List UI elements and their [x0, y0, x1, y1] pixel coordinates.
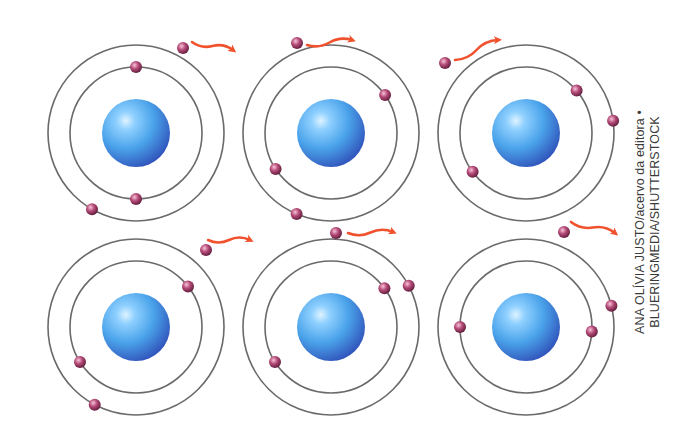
electron	[182, 280, 194, 292]
atom-4	[48, 238, 250, 416]
electron	[605, 300, 617, 312]
emission-arrow-icon	[192, 42, 233, 50]
credit-line-1: ANA OLÍVIA JUSTO/acervo da editora •	[633, 110, 648, 334]
electron	[607, 115, 619, 127]
electron	[467, 166, 479, 178]
nucleus	[297, 293, 365, 361]
atom-1	[48, 42, 233, 221]
emission-arrow-icon	[348, 230, 393, 235]
ejected-electron	[200, 244, 212, 256]
electron	[454, 321, 466, 333]
electron	[291, 208, 303, 220]
atoms-diagram	[0, 0, 684, 443]
nucleus	[492, 293, 560, 361]
electron	[74, 356, 86, 368]
ejected-electron	[439, 57, 451, 69]
electron	[586, 326, 598, 338]
ejected-electron	[291, 37, 303, 49]
ejected-electron	[558, 226, 570, 238]
electron	[130, 61, 142, 73]
atom-2	[243, 37, 419, 221]
electron	[89, 399, 101, 411]
emission-arrow-icon	[571, 222, 615, 233]
atom-5	[243, 227, 419, 415]
electron	[379, 89, 391, 101]
image-credit: ANA OLÍVIA JUSTO/acervo da editora • BLU…	[633, 110, 663, 334]
atom-6	[438, 222, 617, 415]
emission-arrow-icon	[208, 238, 250, 243]
electron	[378, 282, 390, 294]
atom-3	[438, 40, 619, 221]
nucleus	[492, 99, 560, 167]
electron	[86, 203, 98, 215]
nucleus	[297, 99, 365, 167]
nucleus	[102, 293, 170, 361]
emission-arrow-icon	[455, 40, 498, 60]
ejected-electron	[177, 42, 189, 54]
nucleus	[102, 99, 170, 167]
electron	[403, 280, 415, 292]
ejected-electron	[330, 227, 342, 239]
electron	[269, 356, 281, 368]
credit-line-2: BLUERINGMEDIA/SHUTTERSTOCK	[648, 110, 663, 334]
electron	[270, 163, 282, 175]
electron	[571, 85, 583, 97]
electron	[130, 193, 142, 205]
